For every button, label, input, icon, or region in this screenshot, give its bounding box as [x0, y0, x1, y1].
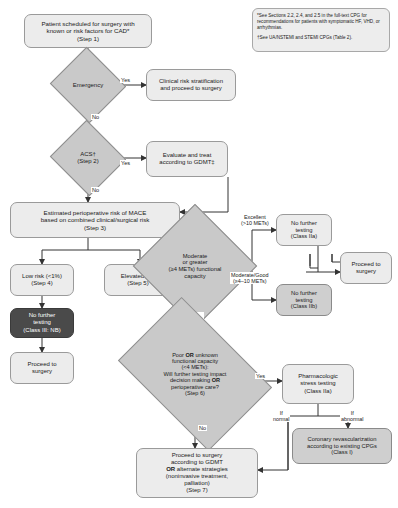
nb-line3: (Class III: NB)	[23, 327, 60, 334]
edge-label-poor-yes: Yes	[255, 373, 266, 379]
final-line1: Proceed to surgery	[166, 452, 228, 459]
final-line2: according to GDMT	[166, 459, 228, 466]
acs-line1: ACS†	[64, 151, 112, 158]
emergency-label: Emergency	[64, 82, 112, 89]
start-line2: known or risk factors for CAD*	[41, 27, 134, 34]
decision-poor-or-unknown-capacity: Poor OR unknown functional capacity (<4 …	[131, 329, 259, 419]
edge-label-poor-no: No	[198, 425, 207, 431]
edge-label-if-normal: If normal	[272, 410, 290, 422]
nb-line2: testing	[23, 319, 60, 326]
proceed-right-line2: surgery	[351, 268, 380, 275]
iib-line2: testing	[291, 297, 317, 304]
acs-line2: (Step 2)	[64, 158, 112, 165]
node-footnote: *See Sections 2.2, 2.4, and 2.5 in the f…	[252, 8, 390, 52]
revasc-line2: according to existing CPGs	[307, 443, 377, 450]
edge-label-moderate-good: Moderate/Good (≥4–10 METs)	[230, 272, 269, 284]
final-line5: palliation)	[166, 480, 228, 487]
decision-emergency: Emergency	[60, 59, 116, 111]
stress-line2: stress testing	[298, 380, 338, 387]
node-start: Patient scheduled for surgery with known…	[24, 14, 152, 48]
if-abnormal-line2: abnormal	[341, 416, 363, 422]
iia-line1: No further	[291, 220, 317, 227]
start-line3: (Step 1)	[41, 35, 134, 42]
mets-line4: capacity	[157, 273, 233, 280]
mace-line2: based on combined clinical/surgical risk	[41, 216, 150, 223]
decision-functional-capacity-mets: Moderate or greater (≥4 METs) functional…	[151, 222, 239, 310]
low-line1: Low risk (<1%)	[22, 273, 62, 280]
revasc-line3: (Class I)	[307, 449, 377, 456]
iia-line3: (Class IIa)	[291, 233, 317, 240]
edge-label-emergency-yes: Yes	[120, 77, 131, 83]
edge-label-emergency-no: No	[91, 114, 100, 120]
clinical-line2: and proceed to surgery	[159, 85, 223, 92]
node-no-further-testing-class-iia: No further testing (Class IIa)	[276, 214, 332, 246]
edge-label-if-abnormal: If abnormal	[340, 410, 364, 422]
mace-line1: Estimated perioperative risk of MACE	[41, 209, 150, 216]
poor-line7: (Step 6)	[140, 390, 250, 396]
node-pharmacologic-stress-testing: Pharmacologic stress testing (Class IIa)	[282, 364, 354, 404]
mets-line1: Moderate	[157, 253, 233, 260]
final-line3b: alternate strategies	[175, 466, 228, 472]
proceed-left-line2: surgery	[27, 368, 56, 375]
moderate-good-line2: (≥4–10 METs)	[231, 278, 268, 284]
poor-line1b: OR	[186, 352, 194, 358]
node-no-further-testing-class-iib: No further testing (Class IIb)	[276, 284, 332, 316]
final-line3a: OR	[166, 466, 175, 472]
mets-line2: or greater	[157, 259, 233, 266]
gdmt-line1: Evaluate and treat	[159, 152, 214, 159]
proceed-right-line1: Proceed to	[351, 261, 380, 268]
gdmt-line2: according to GDMT‡	[159, 159, 214, 166]
mets-line3: (≥4 METs) functional	[157, 266, 233, 273]
mace-line3: (Step 3)	[41, 224, 150, 231]
poor-line5b: OR	[212, 377, 220, 383]
poor-line5a: decision making	[170, 377, 212, 383]
poor-line1a: Poor	[172, 352, 185, 358]
iib-line3: (Class IIb)	[291, 303, 317, 310]
node-evaluate-treat-gdmt: Evaluate and treat according to GDMT‡	[146, 141, 228, 177]
proceed-left-line1: Proceed to	[27, 361, 56, 368]
footnote-line1: *See Sections 2.2, 2.4, and 2.5 in the f…	[257, 13, 385, 31]
node-no-further-testing-class-iii: No further testing (Class III: NB)	[10, 308, 74, 338]
nb-line1: No further	[23, 312, 60, 319]
iia-line2: testing	[291, 227, 317, 234]
footnote-line2: †See UA/NSTEMI and STEMI CPGs (Table 2).	[257, 35, 385, 41]
final-line6: (Step 7)	[166, 487, 228, 494]
edge-label-acs-no: No	[91, 187, 100, 193]
node-coronary-revascularization: Coronary revascularization according to …	[292, 428, 392, 464]
final-line4: (noninvasive treatment,	[166, 473, 228, 480]
node-low-risk: Low risk (<1%) (Step 4)	[10, 264, 74, 296]
edge-label-acs-yes: Yes	[120, 160, 131, 166]
start-line1: Patient scheduled for surgery with	[41, 20, 134, 27]
node-proceed-to-surgery-left: Proceed to surgery	[10, 352, 74, 384]
poor-line1c: unknown	[194, 352, 218, 358]
iib-line1: No further	[291, 290, 317, 297]
stress-line3: (Class IIa)	[298, 388, 338, 395]
stress-line1: Pharmacologic	[298, 373, 338, 380]
node-proceed-to-surgery-right: Proceed to surgery	[340, 252, 392, 284]
low-line2: (Step 4)	[22, 280, 62, 287]
clinical-line1: Clinical risk stratification	[159, 78, 223, 85]
if-normal-line2: normal	[273, 416, 289, 422]
decision-acs: ACS† (Step 2)	[60, 132, 116, 184]
node-clinical-risk-stratification: Clinical risk stratification and proceed…	[146, 69, 236, 101]
excellent-line2: (>10 METs)	[241, 220, 269, 226]
perioperative-cad-flowchart: Patient scheduled for surgery with known…	[0, 0, 398, 508]
node-final-proceed-to-surgery: Proceed to surgery according to GDMT OR …	[136, 448, 258, 498]
revasc-line1: Coronary revascularization	[307, 436, 377, 443]
edge-label-excellent: Excellent (>10 METs)	[240, 214, 270, 226]
